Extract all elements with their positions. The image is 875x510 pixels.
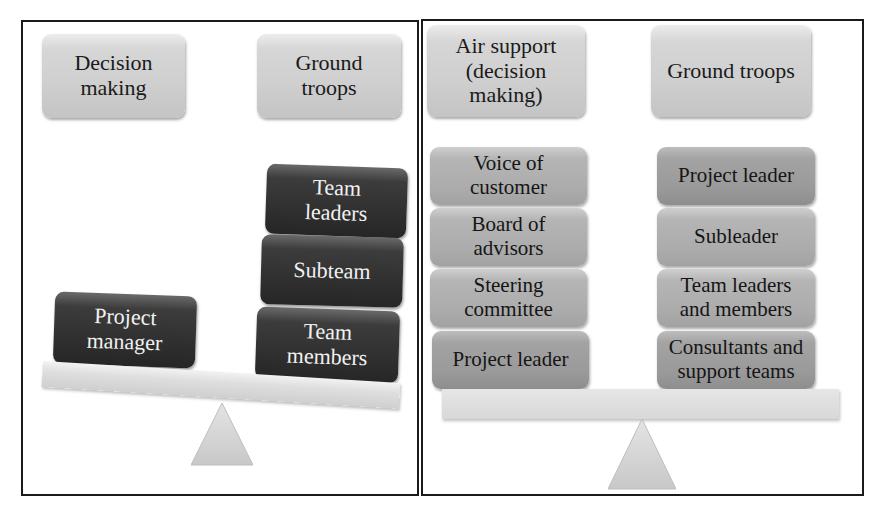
project-leader-box-right: Project leader [657, 147, 815, 205]
project-leader-label-left: Project leader [452, 348, 568, 372]
ground-troops-label: Ground troops [295, 51, 362, 100]
seesaw-beam-balanced [442, 389, 839, 419]
fulcrum-triangle-right [608, 419, 676, 491]
team-leaders-and-members-label: Team leaders and members [680, 274, 793, 321]
subteam-box: Subteam [260, 234, 404, 308]
voice-of-customer-label: Voice of customer [470, 152, 547, 199]
air-support-label: Air support (decision making) [456, 34, 557, 108]
project-leader-label-right: Project leader [678, 164, 794, 188]
board-of-advisors-box: Board of advisors [430, 208, 587, 266]
steering-committee-label: Steering committee [464, 274, 553, 321]
ground-troops-box-right: Ground troops [651, 25, 811, 117]
project-manager-box: Project manager [53, 292, 197, 369]
team-leaders-box: Team leaders [265, 164, 408, 239]
ground-troops-label-right: Ground troops [667, 59, 795, 84]
right-panel: Air support (decision making) Ground tro… [421, 19, 864, 496]
team-leaders-and-members-box: Team leaders and members [657, 269, 815, 327]
team-leaders-label: Team leaders [305, 175, 369, 226]
ground-troops-box: Ground troops [257, 34, 401, 118]
voice-of-customer-box: Voice of customer [430, 147, 587, 205]
subteam-label: Subteam [293, 258, 371, 285]
decision-making-label: Decision making [74, 51, 152, 100]
consultants-support-label: Consultants and support teams [669, 336, 804, 383]
team-members-box: Team members [255, 307, 400, 384]
left-panel: Decision making Ground troops Team leade… [21, 20, 419, 496]
board-of-advisors-label: Board of advisors [471, 213, 545, 260]
project-manager-label: Project manager [86, 304, 163, 356]
subleader-box: Subleader [657, 208, 815, 266]
team-members-label: Team members [286, 319, 368, 371]
subleader-label: Subleader [694, 225, 778, 249]
project-leader-box-left: Project leader [432, 331, 589, 389]
fulcrum-triangle [191, 403, 253, 467]
steering-committee-box: Steering committee [430, 269, 587, 327]
consultants-support-box: Consultants and support teams [657, 331, 815, 389]
decision-making-box: Decision making [42, 34, 185, 118]
air-support-box: Air support (decision making) [427, 25, 585, 117]
